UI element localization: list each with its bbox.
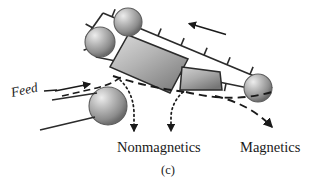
lower-right-roller — [244, 74, 272, 102]
figure-caption: (c) — [161, 163, 175, 177]
nonmagnetics-label: Nonmagnetics — [117, 139, 201, 155]
magnetic-separator-diagram: Feed Nonmagnetics Magnetics (c) — [0, 0, 320, 185]
figure-root: Feed Nonmagnetics Magnetics (c) — [0, 0, 320, 185]
canvas-background — [0, 0, 320, 185]
magnetics-label: Magnetics — [240, 139, 301, 155]
upper-right-roller — [114, 8, 142, 36]
upper-left-roller — [85, 27, 115, 57]
